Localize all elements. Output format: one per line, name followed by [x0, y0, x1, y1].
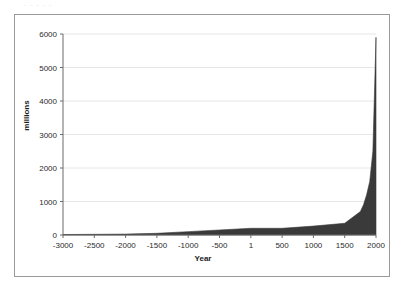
y-tick-labels-group: 0100020003000400050006000 — [39, 30, 57, 240]
x-tick-label: -3000 — [53, 241, 74, 250]
y-tick-label: 5000 — [39, 64, 57, 73]
x-axis-title: Year — [15, 254, 391, 263]
x-tick-label: -1500 — [147, 241, 168, 250]
x-tick-label: -1000 — [178, 241, 199, 250]
scan-top-cutoff-text: - - - - - — [0, 0, 406, 10]
y-tick-label: 3000 — [39, 131, 57, 140]
x-tick-label: 2000 — [367, 241, 385, 250]
area-series-group — [63, 37, 376, 235]
area-chart-svg: 0100020003000400050006000 -3000-2500-200… — [15, 15, 391, 278]
x-tick-label: -500 — [211, 241, 228, 250]
y-tick-label: 6000 — [39, 30, 57, 39]
x-tick-label: 1 — [249, 241, 254, 250]
y-tick-label: 2000 — [39, 164, 57, 173]
x-tick-label: 500 — [275, 241, 289, 250]
y-tick-label: 0 — [53, 231, 58, 240]
chart-plot-container: millions 0100020003000400050006000 -3000… — [15, 15, 389, 276]
x-tick-label: 1000 — [305, 241, 323, 250]
chart-frame: millions 0100020003000400050006000 -3000… — [14, 14, 390, 277]
x-tick-label: 1500 — [336, 241, 354, 250]
area-series-population — [63, 37, 376, 235]
gridlines-group — [63, 34, 376, 202]
x-tick-labels-group: -3000-2500-2000-1500-1000-50015001000150… — [53, 241, 386, 250]
y-tick-label: 1000 — [39, 198, 57, 207]
x-tick-label: -2000 — [115, 241, 136, 250]
y-tick-label: 4000 — [39, 97, 57, 106]
x-tick-label: -2500 — [84, 241, 105, 250]
